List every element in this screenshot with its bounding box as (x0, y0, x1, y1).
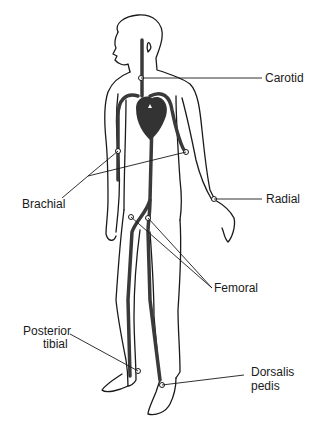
human-figure-illustration (0, 0, 311, 423)
label-brachial: Brachial (22, 198, 65, 211)
label-posterior-tibial-line2: tibial (43, 338, 68, 351)
pulse-points-diagram: Carotid Brachial Radial Femoral Posterio… (0, 0, 311, 423)
label-carotid: Carotid (265, 72, 304, 85)
label-femoral: Femoral (214, 282, 258, 295)
label-dorsalis-pedis-line1: Dorsalis (251, 366, 294, 379)
heart-shape (136, 96, 167, 140)
label-dorsalis-pedis-line2: pedis (251, 380, 280, 393)
label-radial: Radial (266, 193, 300, 206)
